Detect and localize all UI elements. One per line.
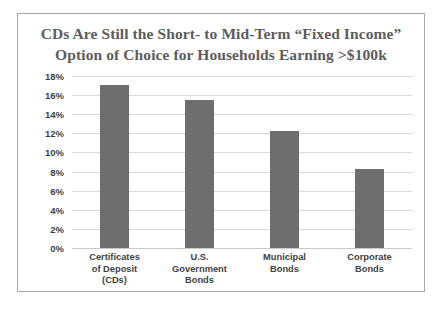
bar-slot: [72, 76, 157, 248]
x-axis-label: Certificates of Deposit (CDs): [72, 252, 157, 287]
y-axis: 18% 16% 14% 12% 10% 8% 6% 4% 2% 0%: [28, 76, 68, 248]
chart-page: CDs Are Still the Short- to Mid-Term “Fi…: [0, 0, 443, 311]
bar-slot: [157, 76, 242, 248]
chart-title-line-1: CDs Are Still the Short- to Mid-Term “Fi…: [18, 23, 424, 44]
y-tick-label: 6%: [50, 185, 64, 196]
y-tick-label: 4%: [50, 204, 64, 215]
x-axis-label: Corporate Bonds: [327, 252, 412, 287]
y-tick-label: 12%: [45, 128, 64, 139]
x-axis-label-line: Bonds: [242, 264, 327, 276]
x-axis-label-line: (CDs): [72, 275, 157, 287]
x-axis-label-line: Certificates: [72, 252, 157, 264]
x-axis: Certificates of Deposit (CDs) U.S. Gover…: [72, 252, 412, 287]
bar-series: [72, 76, 412, 248]
y-tick-label: 2%: [50, 223, 64, 234]
x-axis-label-line: Bonds: [157, 275, 242, 287]
plot-area: [72, 76, 412, 248]
y-tick-label: 10%: [45, 147, 64, 158]
y-tick-label: 14%: [45, 109, 64, 120]
x-axis-label-line: U.S.: [157, 252, 242, 264]
chart-frame: CDs Are Still the Short- to Mid-Term “Fi…: [17, 13, 425, 292]
x-axis-label-line: Bonds: [327, 264, 412, 276]
y-tick-label: 16%: [45, 90, 64, 101]
x-axis-label-line: of Deposit: [72, 264, 157, 276]
axis-baseline: [72, 248, 412, 249]
bar-slot: [242, 76, 327, 248]
x-axis-label-line: Government: [157, 264, 242, 276]
bar[interactable]: [100, 85, 129, 248]
x-axis-label-line: Corporate: [327, 252, 412, 264]
x-axis-label-line: Municipal: [242, 252, 327, 264]
y-tick-label: 8%: [50, 166, 64, 177]
chart-body: 18% 16% 14% 12% 10% 8% 6% 4% 2% 0%: [28, 76, 416, 285]
chart-title: CDs Are Still the Short- to Mid-Term “Fi…: [18, 23, 424, 65]
bar[interactable]: [185, 100, 214, 248]
bar[interactable]: [270, 131, 299, 248]
x-axis-label: U.S. Government Bonds: [157, 252, 242, 287]
chart-title-line-2: Option of Choice for Households Earning …: [18, 44, 424, 65]
bar[interactable]: [355, 169, 384, 248]
y-tick-label: 18%: [45, 71, 64, 82]
x-axis-label: Municipal Bonds: [242, 252, 327, 287]
y-tick-label: 0%: [50, 243, 64, 254]
bar-slot: [327, 76, 412, 248]
